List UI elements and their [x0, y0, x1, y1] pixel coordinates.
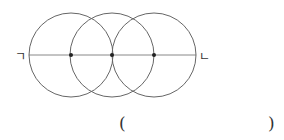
circles-diagram	[0, 0, 284, 140]
endpoint-label-left: ㄱ	[15, 47, 26, 64]
answer-open-paren: (	[119, 115, 126, 132]
answer-close-paren: )	[268, 115, 275, 132]
endpoint-label-right: ㄴ	[199, 47, 210, 64]
center-point-2	[110, 53, 114, 57]
center-point-3	[152, 53, 156, 57]
center-point-1	[69, 53, 73, 57]
